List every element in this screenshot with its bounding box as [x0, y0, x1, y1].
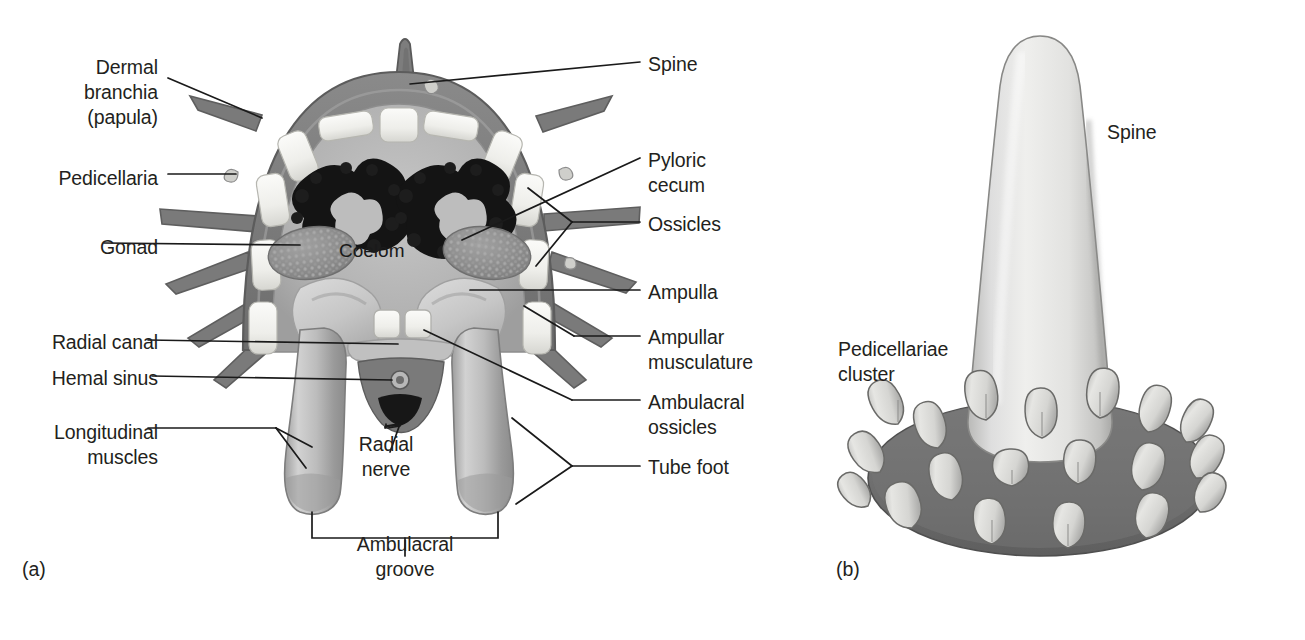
label-pyloric-cecum: Pyloric cecum	[648, 148, 848, 198]
hemal-sinus-shape	[391, 371, 409, 389]
figure-root: Dermal branchia (papula) Pedicellaria Go…	[0, 0, 1305, 640]
label-spine: Spine	[648, 52, 848, 77]
label-ossicles: Ossicles	[648, 212, 848, 237]
anatomy-illustration	[0, 0, 1305, 640]
panel-caption-a: (a)	[22, 558, 46, 581]
label-ampulla: Ampulla	[648, 280, 848, 305]
label-spine-b: Spine	[1107, 120, 1227, 145]
label-pedicellaria: Pedicellaria	[8, 166, 158, 191]
label-radial-nerve: Radial nerve	[331, 432, 441, 482]
label-coelom: Coelom	[339, 240, 404, 262]
label-gonad: Gonad	[8, 235, 158, 260]
label-ampullar-musculature: Ampullar musculature	[648, 325, 848, 375]
label-pedicellariae-cluster: Pedicellariae cluster	[838, 337, 998, 387]
label-tube-foot: Tube foot	[648, 455, 848, 480]
label-ambulacral-ossicles: Ambulacral ossicles	[648, 390, 848, 440]
label-radial-canal: Radial canal	[8, 330, 158, 355]
label-hemal-sinus: Hemal sinus	[8, 366, 158, 391]
label-longitudinal-muscles: Longitudinal muscles	[8, 420, 158, 470]
panel-b-graphic	[832, 36, 1231, 556]
panel-caption-b: (b)	[836, 558, 860, 581]
label-ambulacral-groove: Ambulacral groove	[310, 532, 500, 582]
label-dermal-branchia: Dermal branchia (papula)	[8, 55, 158, 130]
